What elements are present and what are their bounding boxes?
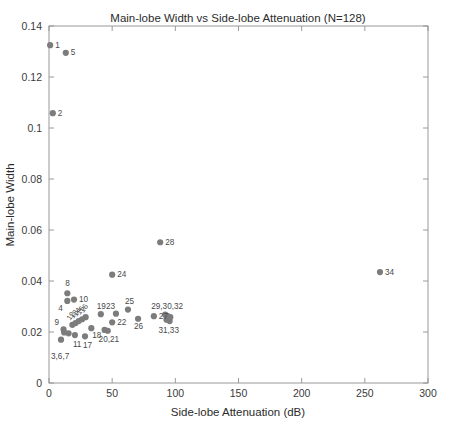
data-point-marker[interactable] xyxy=(50,110,56,116)
data-point-marker[interactable] xyxy=(64,298,70,304)
data-point-label: 23 xyxy=(106,302,116,311)
y-tick-label: 0.14 xyxy=(22,20,43,32)
data-point-label: 24 xyxy=(117,270,127,279)
data-point-label: 17 xyxy=(83,341,93,350)
data-point-label: 26 xyxy=(134,322,144,331)
y-tick-label: 0.1 xyxy=(27,122,42,134)
data-point-label: 5 xyxy=(71,48,76,57)
y-tick-label: 0 xyxy=(36,377,42,389)
data-point-marker[interactable] xyxy=(69,322,75,328)
x-tick-label: 250 xyxy=(356,387,374,399)
data-point-label: 22 xyxy=(117,318,127,327)
data-point-marker[interactable] xyxy=(109,272,115,278)
data-point-marker[interactable] xyxy=(157,239,163,245)
data-point-label: 1 xyxy=(55,41,60,50)
x-tick-label: 200 xyxy=(293,387,311,399)
plot-canvas: Main-lobe Width vs Side-lobe Attenuation… xyxy=(0,0,454,429)
scatter-plot-figure: Main-lobe Width vs Side-lobe Attenuation… xyxy=(0,0,454,429)
data-point-label: 31,33 xyxy=(158,326,179,335)
y-tick-label: 0.06 xyxy=(22,224,43,236)
x-tick-label: 150 xyxy=(230,387,248,399)
x-tick-label: 50 xyxy=(106,387,118,399)
data-point-marker[interactable] xyxy=(71,297,77,303)
data-point-marker[interactable] xyxy=(98,311,104,317)
y-axis-title: Main-lobe Width xyxy=(4,163,16,246)
data-point-label: 4 xyxy=(58,304,63,313)
figure-background xyxy=(0,0,454,429)
data-point-marker[interactable] xyxy=(377,269,383,275)
data-point-label: 27 xyxy=(159,312,169,321)
data-point-label: 25 xyxy=(125,297,135,306)
chart-title: Main-lobe Width vs Side-lobe Attenuation… xyxy=(110,12,366,24)
x-tick-label: 0 xyxy=(46,387,52,399)
data-point-label: 2 xyxy=(58,109,63,118)
x-axis-title: Side-lobe Attenuation (dB) xyxy=(171,406,305,418)
data-point-marker[interactable] xyxy=(125,306,131,312)
data-point-marker[interactable] xyxy=(151,313,157,319)
y-tick-label: 0.04 xyxy=(22,275,43,287)
data-point-label: 8 xyxy=(65,279,70,288)
data-point-label: 3,6,7 xyxy=(51,352,70,361)
data-point-label: 19 xyxy=(97,302,107,311)
y-tick-label: 0.02 xyxy=(22,326,43,338)
data-point-label: 29,30,32 xyxy=(151,302,183,311)
data-point-label: 20,21 xyxy=(99,335,120,344)
data-point-marker[interactable] xyxy=(105,328,111,334)
data-point-marker[interactable] xyxy=(58,337,64,343)
data-point-marker[interactable] xyxy=(64,290,70,296)
data-point-label: 10 xyxy=(79,295,89,304)
data-point-label: 9 xyxy=(55,318,60,327)
data-point-marker[interactable] xyxy=(109,319,115,325)
data-point-marker[interactable] xyxy=(63,50,69,56)
y-tick-label: 0.12 xyxy=(22,71,43,83)
data-point-marker[interactable] xyxy=(72,332,78,338)
data-point-marker[interactable] xyxy=(65,330,71,336)
x-tick-label: 300 xyxy=(419,387,437,399)
data-point-marker[interactable] xyxy=(47,42,53,48)
data-point-marker[interactable] xyxy=(82,333,88,339)
data-point-label: 34 xyxy=(385,268,395,277)
x-tick-label: 100 xyxy=(167,387,185,399)
data-point-label: 11 xyxy=(73,340,82,349)
data-point-label: 28 xyxy=(165,238,175,247)
data-point-marker[interactable] xyxy=(113,311,119,317)
y-tick-label: 0.08 xyxy=(22,173,43,185)
